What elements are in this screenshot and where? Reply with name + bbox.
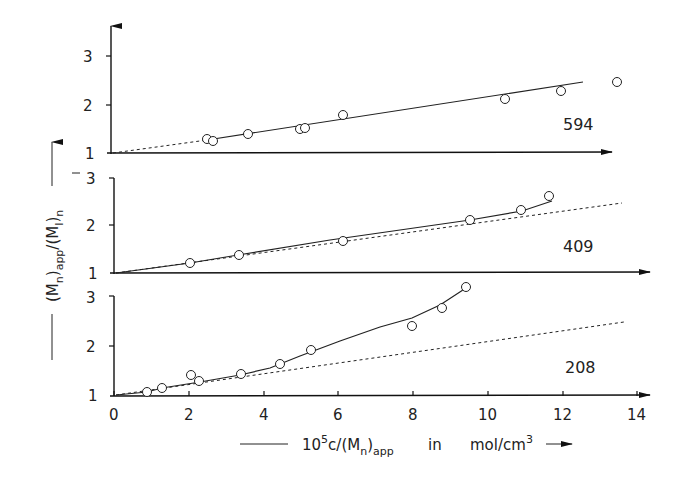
panel-208: 1 2 3 208 xyxy=(86,283,650,406)
svg-text:2: 2 xyxy=(184,406,194,424)
svg-text:6: 6 xyxy=(333,406,343,424)
y-tick-bottom-1: 1 xyxy=(88,387,98,405)
y-tick-top-1: 1 xyxy=(85,145,95,163)
svg-text:10: 10 xyxy=(478,406,497,424)
panel-409: 1 2 3 409 xyxy=(86,170,650,283)
extrapolation-line-594 xyxy=(113,140,207,153)
svg-text:8: 8 xyxy=(408,406,418,424)
x-axis-bottom xyxy=(110,395,650,396)
y-tick-top-2: 2 xyxy=(83,97,93,115)
y-tick-middle-3: 3 xyxy=(86,170,96,188)
panel-label-208: 208 xyxy=(565,358,596,377)
svg-text:105c/(Mn)app: 105c/(Mn)app xyxy=(302,433,394,458)
x-axis-title: 105c/(Mn)app in mol/cm3 xyxy=(240,433,572,458)
data-points-409 xyxy=(186,192,554,268)
svg-text:(Mn)app/(MI)n: (Mn)app/(MI)n xyxy=(44,210,66,302)
svg-text:in: in xyxy=(428,436,442,454)
y-tick-top-3: 3 xyxy=(83,48,93,66)
y-tick-bottom-3: 3 xyxy=(86,289,96,307)
panel-594: 1 2 3 594 xyxy=(83,26,622,163)
svg-text:14: 14 xyxy=(627,406,646,424)
x-tick-labels: 0 2 4 6 8 10 12 14 xyxy=(109,406,646,424)
fit-curve-409 xyxy=(116,201,552,273)
panel-label-594: 594 xyxy=(563,115,594,134)
y-tick-middle-2: 2 xyxy=(86,217,96,235)
x-axis-top xyxy=(107,152,612,153)
svg-text:12: 12 xyxy=(553,406,572,424)
svg-text:mol/cm3: mol/cm3 xyxy=(470,433,533,454)
svg-text:4: 4 xyxy=(259,406,269,424)
y-tick-middle-1: 1 xyxy=(88,265,98,283)
chart: 1 2 3 594 1 2 3 xyxy=(0,0,686,481)
y-axis-title: (Mn)app/(MI)n xyxy=(44,142,80,360)
limiting-slope-208 xyxy=(116,322,624,395)
fit-curve-208 xyxy=(116,288,466,395)
y-tick-bottom-2: 2 xyxy=(86,338,96,356)
fit-line-594 xyxy=(207,82,583,140)
data-points-208 xyxy=(143,283,471,397)
panel-label-409: 409 xyxy=(563,237,594,256)
data-points-594 xyxy=(203,78,622,146)
x-axis-middle xyxy=(110,272,650,273)
svg-text:0: 0 xyxy=(109,406,119,424)
